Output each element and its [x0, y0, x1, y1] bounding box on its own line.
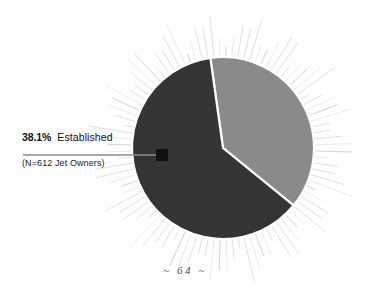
callout-label-block: 38.1%Established (N=612 Jet Owners)	[22, 130, 172, 169]
callout-sample-size: (N=612 Jet Owners)	[22, 157, 172, 169]
callout-percent: 38.1%	[22, 131, 51, 143]
callout-segment-name: Established	[57, 131, 112, 143]
scanned-page: 38.1%Established (N=612 Jet Owners) ~ 64…	[0, 0, 370, 297]
page-number: ~ 64 ~	[0, 264, 370, 276]
callout-main-line: 38.1%Established	[22, 130, 172, 144]
